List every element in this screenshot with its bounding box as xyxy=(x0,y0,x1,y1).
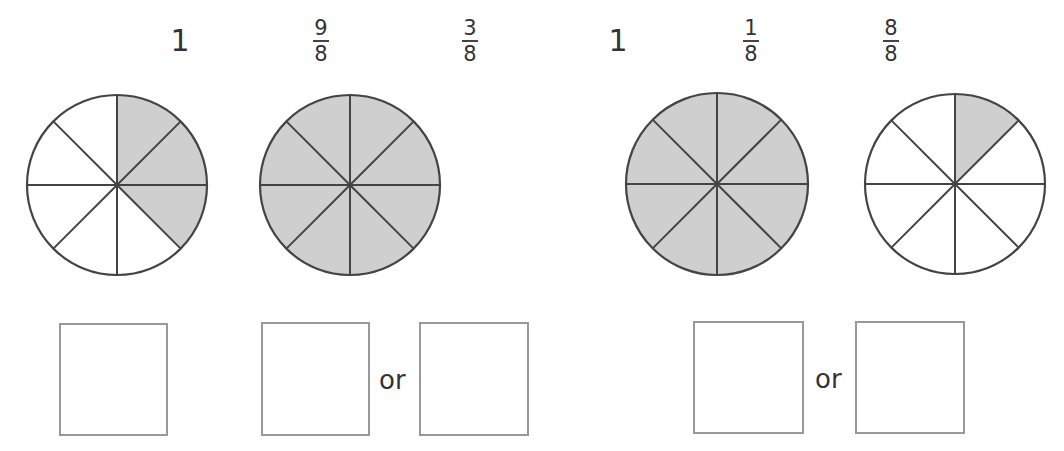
numerator: 3 xyxy=(463,18,476,39)
denominator: 8 xyxy=(744,44,757,65)
numerator: 1 xyxy=(744,18,757,39)
denominator: 8 xyxy=(314,44,327,65)
numerator: 9 xyxy=(314,18,327,39)
denominator: 8 xyxy=(884,44,897,65)
answer-box-2[interactable] xyxy=(261,322,370,436)
fraction-circle-3 xyxy=(624,91,810,277)
answer-box-5[interactable] xyxy=(855,321,965,434)
label-whole-1-second: 1 xyxy=(606,26,630,56)
or-text-2: or xyxy=(815,366,842,392)
label-fraction-3-8: 3 8 xyxy=(462,18,478,65)
fraction-circle-1 xyxy=(25,93,209,277)
fraction-circle-4 xyxy=(863,92,1047,276)
label-fraction-1-8: 1 8 xyxy=(743,18,759,65)
label-whole-1: 1 xyxy=(168,26,192,56)
fraction-circle-2 xyxy=(258,93,442,277)
or-text-1: or xyxy=(379,367,406,393)
answer-box-4[interactable] xyxy=(693,321,804,434)
numerator: 8 xyxy=(884,18,897,39)
answer-box-3[interactable] xyxy=(419,322,529,436)
label-fraction-9-8: 9 8 xyxy=(313,18,329,65)
label-fraction-8-8: 8 8 xyxy=(883,18,899,65)
denominator: 8 xyxy=(463,44,476,65)
answer-box-1[interactable] xyxy=(59,323,168,436)
